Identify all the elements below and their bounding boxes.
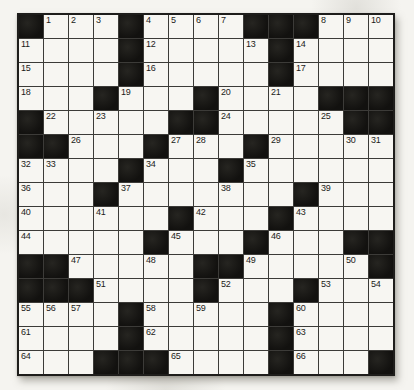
grid-cell[interactable]	[194, 231, 218, 254]
grid-cell[interactable]	[194, 327, 218, 350]
grid-cell[interactable]	[169, 87, 193, 110]
grid-cell[interactable]	[169, 159, 193, 182]
grid-cell[interactable]: 26	[69, 135, 93, 158]
grid-cell[interactable]	[169, 303, 193, 326]
grid-cell[interactable]	[319, 159, 343, 182]
grid-cell[interactable]	[219, 39, 243, 62]
grid-cell[interactable]: 9	[344, 15, 368, 38]
grid-cell[interactable]: 43	[294, 207, 318, 230]
grid-cell[interactable]	[244, 207, 268, 230]
grid-cell[interactable]: 61	[19, 327, 43, 350]
grid-cell[interactable]	[319, 303, 343, 326]
grid-cell[interactable]: 57	[69, 303, 93, 326]
grid-cell[interactable]	[69, 207, 93, 230]
grid-cell[interactable]: 4	[144, 15, 168, 38]
grid-cell[interactable]	[244, 183, 268, 206]
grid-cell[interactable]	[69, 159, 93, 182]
grid-cell[interactable]	[344, 351, 368, 374]
grid-cell[interactable]: 15	[19, 63, 43, 86]
grid-cell[interactable]	[344, 183, 368, 206]
grid-cell[interactable]	[244, 63, 268, 86]
grid-cell[interactable]	[44, 327, 68, 350]
grid-cell[interactable]: 8	[319, 15, 343, 38]
grid-cell[interactable]: 10	[369, 15, 393, 38]
grid-cell[interactable]	[344, 279, 368, 302]
grid-cell[interactable]	[369, 303, 393, 326]
grid-cell[interactable]: 17	[294, 63, 318, 86]
grid-cell[interactable]	[44, 231, 68, 254]
grid-cell[interactable]	[44, 87, 68, 110]
grid-cell[interactable]	[294, 159, 318, 182]
grid-cell[interactable]: 41	[94, 207, 118, 230]
grid-cell[interactable]	[369, 207, 393, 230]
grid-cell[interactable]: 30	[344, 135, 368, 158]
grid-cell[interactable]: 28	[194, 135, 218, 158]
grid-cell[interactable]: 47	[69, 255, 93, 278]
grid-cell[interactable]: 48	[144, 255, 168, 278]
grid-cell[interactable]	[144, 111, 168, 134]
grid-cell[interactable]	[144, 279, 168, 302]
grid-cell[interactable]: 62	[144, 327, 168, 350]
grid-cell[interactable]	[294, 255, 318, 278]
grid-cell[interactable]	[294, 231, 318, 254]
grid-cell[interactable]	[69, 183, 93, 206]
grid-cell[interactable]: 49	[244, 255, 268, 278]
grid-cell[interactable]: 38	[219, 183, 243, 206]
grid-cell[interactable]	[269, 111, 293, 134]
grid-cell[interactable]: 37	[119, 183, 143, 206]
grid-cell[interactable]: 39	[319, 183, 343, 206]
grid-cell[interactable]	[169, 39, 193, 62]
grid-cell[interactable]: 66	[294, 351, 318, 374]
grid-cell[interactable]	[219, 207, 243, 230]
grid-cell[interactable]	[69, 63, 93, 86]
grid-cell[interactable]: 65	[169, 351, 193, 374]
grid-cell[interactable]	[369, 39, 393, 62]
grid-cell[interactable]: 46	[269, 231, 293, 254]
grid-cell[interactable]	[69, 39, 93, 62]
grid-cell[interactable]	[244, 111, 268, 134]
grid-cell[interactable]	[94, 39, 118, 62]
grid-cell[interactable]: 64	[19, 351, 43, 374]
grid-cell[interactable]	[69, 327, 93, 350]
grid-cell[interactable]	[194, 39, 218, 62]
grid-cell[interactable]	[369, 159, 393, 182]
grid-cell[interactable]: 18	[19, 87, 43, 110]
grid-cell[interactable]: 1	[44, 15, 68, 38]
grid-cell[interactable]	[44, 39, 68, 62]
grid-cell[interactable]	[319, 207, 343, 230]
grid-cell[interactable]: 3	[94, 15, 118, 38]
grid-cell[interactable]: 33	[44, 159, 68, 182]
grid-cell[interactable]: 51	[94, 279, 118, 302]
grid-cell[interactable]: 6	[194, 15, 218, 38]
grid-cell[interactable]	[269, 279, 293, 302]
grid-cell[interactable]	[119, 135, 143, 158]
grid-cell[interactable]: 25	[319, 111, 343, 134]
grid-cell[interactable]	[144, 87, 168, 110]
grid-cell[interactable]: 32	[19, 159, 43, 182]
grid-cell[interactable]	[44, 63, 68, 86]
grid-cell[interactable]: 60	[294, 303, 318, 326]
grid-cell[interactable]	[269, 159, 293, 182]
grid-cell[interactable]	[194, 63, 218, 86]
grid-cell[interactable]	[94, 255, 118, 278]
grid-cell[interactable]: 34	[144, 159, 168, 182]
grid-cell[interactable]	[344, 327, 368, 350]
grid-cell[interactable]: 53	[319, 279, 343, 302]
grid-cell[interactable]	[344, 303, 368, 326]
grid-cell[interactable]	[319, 231, 343, 254]
grid-cell[interactable]	[119, 279, 143, 302]
grid-cell[interactable]	[294, 87, 318, 110]
grid-cell[interactable]	[44, 351, 68, 374]
grid-cell[interactable]: 29	[269, 135, 293, 158]
grid-cell[interactable]	[369, 183, 393, 206]
grid-cell[interactable]: 58	[144, 303, 168, 326]
grid-cell[interactable]	[344, 63, 368, 86]
grid-cell[interactable]	[69, 111, 93, 134]
grid-cell[interactable]	[94, 231, 118, 254]
grid-cell[interactable]	[344, 39, 368, 62]
grid-cell[interactable]: 59	[194, 303, 218, 326]
grid-cell[interactable]: 31	[369, 135, 393, 158]
grid-cell[interactable]: 54	[369, 279, 393, 302]
grid-cell[interactable]: 55	[19, 303, 43, 326]
grid-cell[interactable]	[369, 63, 393, 86]
